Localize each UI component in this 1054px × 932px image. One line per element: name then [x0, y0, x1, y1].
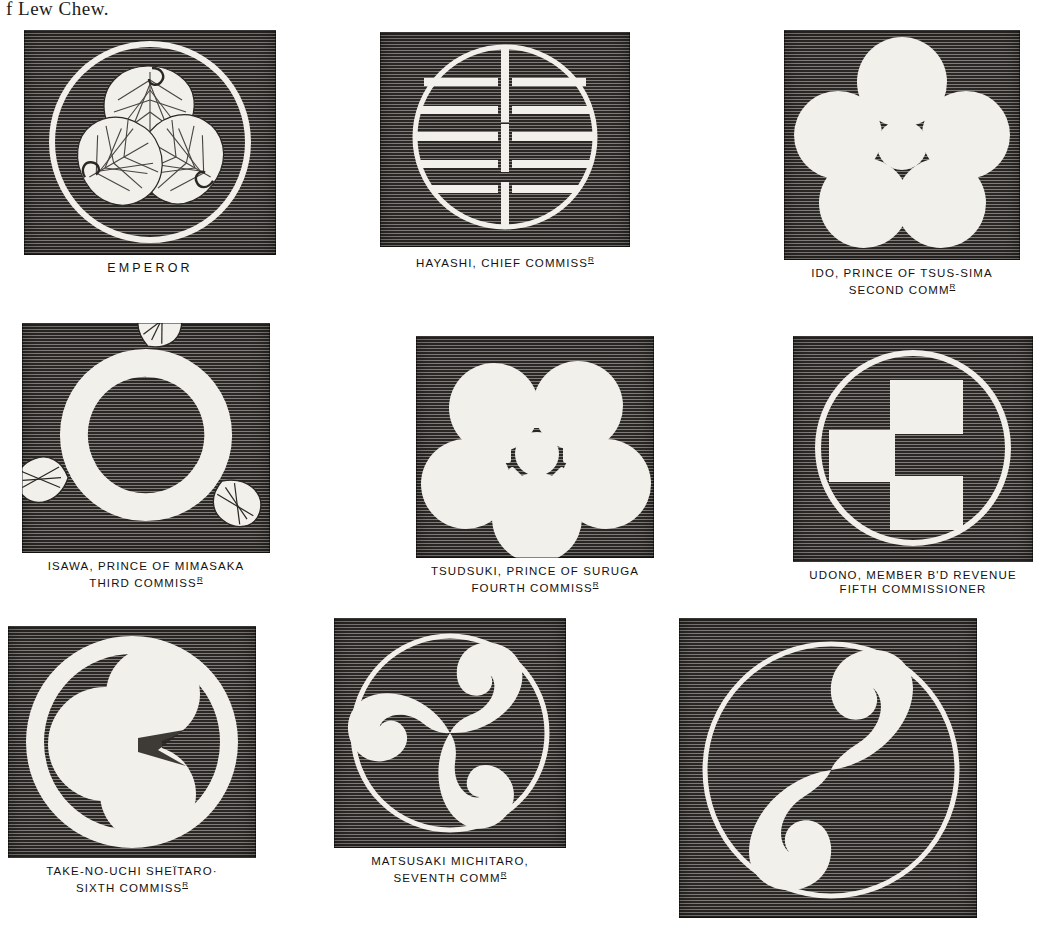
- isawa-crest-icon: [22, 323, 270, 553]
- caption-line-1: UDONO, MEMBER B'D REVENUE: [809, 569, 1016, 581]
- caption-line-2: FIFTH COMMISSIONER: [788, 582, 1038, 596]
- caption-abbrev: R: [501, 870, 507, 879]
- caption-abbrev: R: [588, 255, 594, 264]
- ido-crest-icon: [784, 30, 1020, 260]
- crest-caption-matsusaki: MATSUSAKI MICHITARO, SEVENTH COMMR: [322, 854, 578, 885]
- hayashi-crest-icon: [380, 32, 630, 247]
- crest-cell-isawa: ISAWA, PRINCE OF MIMASAKA THIRD COMMISSR: [16, 323, 276, 590]
- running-head: f Lew Chew.: [6, 0, 109, 20]
- caption-line-2-wrap: THIRD COMMISSR: [16, 573, 276, 590]
- crest-block-emperor: [24, 30, 276, 255]
- caption-line-2: THIRD COMMISS: [89, 577, 197, 589]
- crest-caption-ido: IDO, PRINCE OF TSUS-SIMA SECOND COMMR: [782, 266, 1022, 297]
- crest-plate: EMPEROR: [0, 18, 1054, 932]
- caption-line-2-wrap: SIXTH COMMISSR: [4, 878, 260, 895]
- caption-line-1: TAKE-NO-UCHI SHEÏTARO·: [46, 865, 217, 877]
- caption-line-2: SEVENTH COMM: [394, 872, 501, 884]
- caption-line-1: IDO, PRINCE OF TSUS-SIMA: [811, 267, 992, 279]
- caption-line-2-wrap: SECOND COMMR: [782, 280, 1022, 297]
- caption-line-2: FOURTH COMMISS: [471, 582, 592, 594]
- caption-abbrev: R: [182, 880, 188, 889]
- emperor-crest-icon: [24, 30, 276, 255]
- caption-line-1: MATSUSAKI MICHITARO,: [371, 855, 529, 867]
- caption-abbrev: R: [197, 575, 203, 584]
- crest-cell-take-no-uchi: TAKE-NO-UCHI SHEÏTARO· SIXTH COMMISSR: [4, 626, 260, 895]
- crest-block-take-no-uchi: [8, 626, 256, 858]
- crest-cell-emperor: EMPEROR: [24, 30, 276, 275]
- caption-abbrev: R: [950, 282, 956, 291]
- caption-line-1: ISAWA, PRINCE OF MIMASAKA: [48, 560, 245, 572]
- caption-line-2: SECOND COMM: [849, 284, 950, 296]
- crest-block-matsusaki: [334, 618, 566, 848]
- caption-line-2-wrap: FOURTH COMMISSR: [404, 578, 666, 595]
- crest-caption-tsudsuki: TSUDSUKI, PRINCE OF SURUGA FOURTH COMMIS…: [404, 564, 666, 595]
- udono-crest-icon: [793, 336, 1033, 562]
- crest-cell-ido: IDO, PRINCE OF TSUS-SIMA SECOND COMMR: [782, 30, 1022, 297]
- caption-line-1: TSUDSUKI, PRINCE OF SURUGA: [431, 565, 639, 577]
- crest-caption-emperor: EMPEROR: [24, 261, 276, 275]
- crest-cell-tsudsuki: TSUDSUKI, PRINCE OF SURUGA FOURTH COMMIS…: [404, 336, 666, 595]
- crest-block-isawa: [22, 323, 270, 553]
- crest-caption-hayashi: HAYASHI, CHIEF COMMISSR: [380, 253, 630, 270]
- crest-block-unlabelled: [679, 618, 977, 918]
- caption-line-1: EMPEROR: [107, 261, 193, 275]
- take-no-uchi-crest-icon: [8, 626, 256, 858]
- caption-line-2-wrap: SEVENTH COMMR: [322, 868, 578, 885]
- caption-line-2: SIXTH COMMISS: [76, 882, 182, 894]
- crest-cell-hayashi: HAYASHI, CHIEF COMMISSR: [380, 32, 630, 270]
- crest-cell-unlabelled: [678, 618, 978, 918]
- tsudsuki-crest-icon: [416, 336, 654, 558]
- crest-caption-take-no-uchi: TAKE-NO-UCHI SHEÏTARO· SIXTH COMMISSR: [4, 864, 260, 895]
- caption-line-1: HAYASHI, CHIEF COMMISS: [416, 257, 588, 269]
- crest-caption-udono: UDONO, MEMBER B'D REVENUE FIFTH COMMISSI…: [788, 568, 1038, 596]
- crest-cell-matsusaki: MATSUSAKI MICHITARO, SEVENTH COMMR: [322, 618, 578, 885]
- crest-caption-isawa: ISAWA, PRINCE OF MIMASAKA THIRD COMMISSR: [16, 559, 276, 590]
- crest-cell-udono: UDONO, MEMBER B'D REVENUE FIFTH COMMISSI…: [788, 336, 1038, 596]
- crest-block-ido: [784, 30, 1020, 260]
- crest-block-udono: [793, 336, 1033, 562]
- caption-abbrev: R: [593, 580, 599, 589]
- crest-block-hayashi: [380, 32, 630, 247]
- matsusaki-crest-icon: [334, 618, 566, 848]
- crest-block-tsudsuki: [416, 336, 654, 558]
- futatsudomoe-crest-icon: [679, 618, 977, 918]
